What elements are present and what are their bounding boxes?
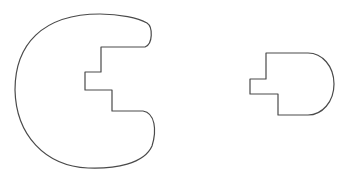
diagram-canvas [0, 0, 346, 183]
large-c-shape [15, 14, 155, 168]
small-d-shape [250, 53, 334, 115]
